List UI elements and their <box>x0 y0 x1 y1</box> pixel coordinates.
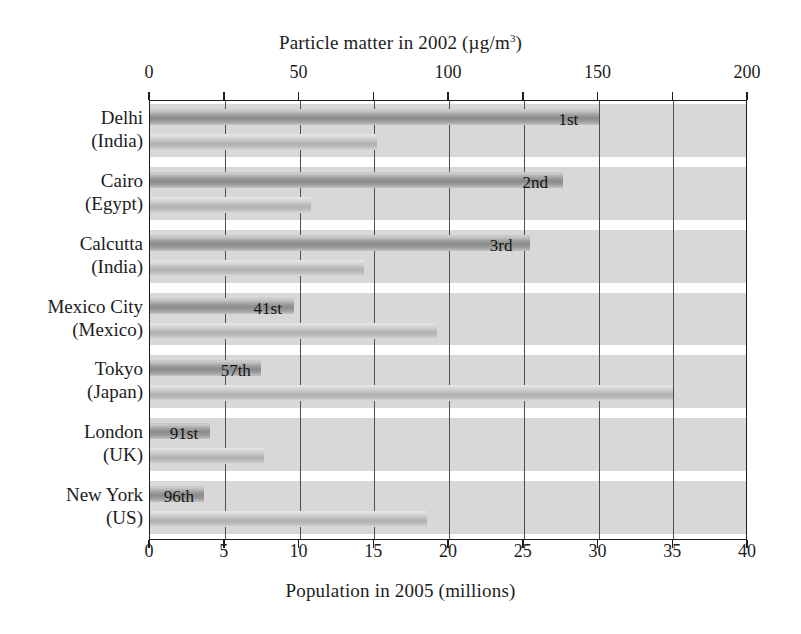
gridline-3 <box>374 101 375 539</box>
top-ticks-3: 150 <box>584 62 611 83</box>
top-tickmark-8 <box>746 92 748 100</box>
gridline-7 <box>673 101 674 539</box>
bottom-tickmark-3 <box>373 540 375 548</box>
gridline-1 <box>225 101 226 539</box>
rank-label-2: 3rd <box>490 237 513 254</box>
category-label-2: Calcutta(India) <box>0 232 143 278</box>
top-tickmark-7 <box>672 92 674 100</box>
gridline-4 <box>449 101 450 539</box>
category-label-5: London(UK) <box>0 420 143 466</box>
top-tickmark-2 <box>298 92 300 100</box>
bar-population-3 <box>150 323 437 339</box>
category-country: (India) <box>0 255 143 278</box>
category-city: Mexico City <box>47 296 143 317</box>
bar-population-6 <box>150 511 427 527</box>
bottom-tickmark-1 <box>223 540 225 548</box>
chart-legend: Pollution levelsPopulation levels <box>624 533 746 539</box>
top-ticks-1: 50 <box>290 62 308 83</box>
top-tickmark-5 <box>522 92 524 100</box>
rank-label-1: 2nd <box>523 174 549 191</box>
top-axis-title: Particle matter in 2002 (µg/m3) <box>0 32 801 54</box>
bottom-tickmark-2 <box>298 540 300 548</box>
top-axis-title-text: Particle matter in 2002 (µg/m <box>279 32 510 53</box>
top-tickmark-1 <box>223 92 225 100</box>
category-city: Tokyo <box>95 358 143 379</box>
category-city: Delhi <box>101 107 143 128</box>
top-ticks-4: 200 <box>734 62 761 83</box>
bottom-tickmark-0 <box>148 540 150 548</box>
category-label-0: Delhi(India) <box>0 106 143 152</box>
bar-pollution-2 <box>150 235 530 251</box>
top-ticks-2: 100 <box>435 62 462 83</box>
category-country: (India) <box>0 129 143 152</box>
category-country: (US) <box>0 506 143 529</box>
legend-row-0[interactable]: Pollution levels <box>624 533 746 539</box>
bottom-tickmark-7 <box>672 540 674 548</box>
bottom-axis-tick-labels: 0510152025303540 <box>0 541 801 563</box>
rank-label-6: 96th <box>164 488 194 505</box>
category-country: (UK) <box>0 443 143 466</box>
bar-pollution-0 <box>150 109 599 125</box>
category-country: (Japan) <box>0 380 143 403</box>
bar-population-1 <box>150 197 311 213</box>
bottom-tickmark-8 <box>746 540 748 548</box>
top-tickmark-4 <box>447 92 449 100</box>
bottom-tickmark-5 <box>522 540 524 548</box>
legend-label-pollution: Pollution levels <box>712 538 746 539</box>
rank-label-4: 57th <box>221 362 251 379</box>
gridline-6 <box>599 101 600 539</box>
category-label-6: New York(US) <box>0 483 143 529</box>
top-ticks-0: 0 <box>145 62 154 83</box>
category-country: (Egypt) <box>0 192 143 215</box>
gridline-5 <box>524 101 525 539</box>
bar-pollution-1 <box>150 172 563 188</box>
category-city: New York <box>66 484 143 505</box>
top-tickmark-6 <box>597 92 599 100</box>
category-label-3: Mexico City(Mexico) <box>0 295 143 341</box>
top-axis-tick-labels: 050100150200 <box>0 62 801 84</box>
bottom-tickmark-4 <box>447 540 449 548</box>
rank-label-0: 1st <box>559 111 579 128</box>
category-label-4: Tokyo(Japan) <box>0 357 143 403</box>
bar-population-0 <box>150 134 377 150</box>
top-tickmark-0 <box>148 92 150 100</box>
category-city: London <box>84 421 143 442</box>
chart-figure: Particle matter in 2002 (µg/m3) 05010015… <box>0 0 801 634</box>
bar-population-5 <box>150 448 264 464</box>
gridline-2 <box>300 101 301 539</box>
category-city: Cairo <box>101 170 143 191</box>
rank-label-3: 41st <box>254 300 282 317</box>
top-axis-title-suffix: ) <box>516 32 523 53</box>
rank-label-5: 91st <box>170 425 198 442</box>
bottom-axis-title: Population in 2005 (millions) <box>0 580 801 602</box>
bottom-tickmark-6 <box>597 540 599 548</box>
category-city: Calcutta <box>80 233 143 254</box>
category-label-1: Cairo(Egypt) <box>0 169 143 215</box>
plot-area: 1st2nd3rd41st57th91st96th Pollution leve… <box>149 100 747 540</box>
bar-population-2 <box>150 260 364 276</box>
bar-population-4 <box>150 385 673 401</box>
category-country: (Mexico) <box>0 318 143 341</box>
top-tickmark-3 <box>373 92 375 100</box>
